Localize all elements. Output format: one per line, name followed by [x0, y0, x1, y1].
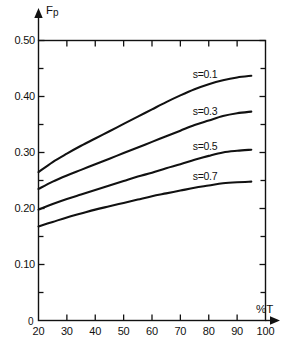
x-tick-label: 90	[223, 325, 251, 337]
x-tick-label: 80	[195, 325, 223, 337]
curve-label-s-0-3: s=0.3	[193, 105, 217, 117]
curve-s-0-3	[39, 112, 252, 189]
x-tick-label: 100	[252, 325, 280, 337]
curve-label-s-0-5: s=0.5	[193, 140, 217, 152]
y-axis-title-subscript: p	[53, 7, 59, 18]
chart-figure: Fp %T 00.100.200.300.400.50 203040506070…	[0, 0, 288, 342]
x-tick-label: 70	[166, 325, 194, 337]
y-tick-label: 0.20	[3, 202, 35, 214]
plot-area	[0, 0, 288, 342]
x-tick-label: 40	[81, 325, 109, 337]
plot-frame	[39, 41, 266, 321]
curve-label-s-0-7: s=0.7	[193, 170, 217, 182]
x-tick-label: 50	[110, 325, 138, 337]
x-tick-label: 60	[138, 325, 166, 337]
y-tick-label: 0.40	[3, 90, 35, 102]
y-axis-title: Fp	[46, 4, 59, 16]
data-curves	[39, 76, 252, 227]
curve-s-0-5	[39, 150, 252, 210]
x-axis-title: %T	[256, 303, 273, 315]
y-tick-label: 0.50	[3, 34, 35, 46]
curve-s-0-1	[39, 76, 252, 172]
x-tick-label: 20	[25, 325, 53, 337]
y-tick-label: 0.10	[3, 258, 35, 270]
curve-s-0-7	[39, 182, 252, 227]
curve-label-s-0-1: s=0.1	[193, 68, 217, 80]
y-tick-label: 0.30	[3, 146, 35, 158]
axis-arrows	[34, 8, 280, 325]
x-tick-label: 30	[53, 325, 81, 337]
y-axis-title-main: F	[46, 4, 53, 16]
axis-ticks	[39, 41, 266, 321]
